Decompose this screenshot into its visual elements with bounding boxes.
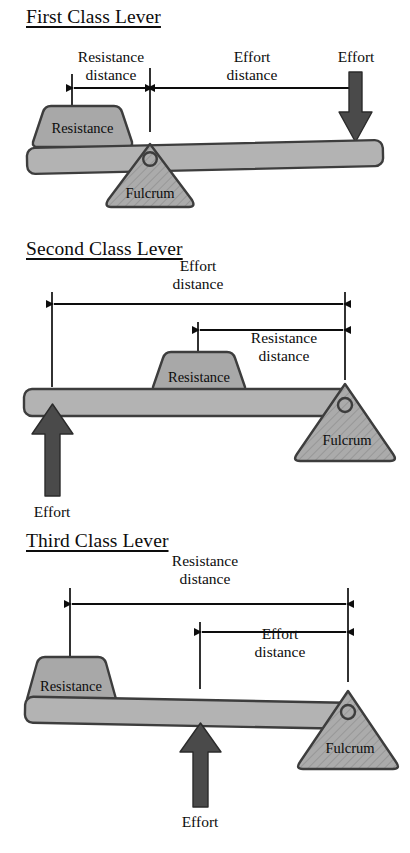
resistance-block-label: Resistance: [168, 369, 230, 385]
effort-distance-label-line1: Effort: [234, 48, 271, 65]
effort-distance-label-line1: Effort: [180, 257, 217, 274]
effort-arrow-up: [32, 404, 73, 496]
resistance-distance-label-line2: distance: [259, 347, 310, 364]
effort-force-label: Effort: [338, 48, 375, 65]
effort-arrow-up: [180, 723, 221, 807]
resistance-distance-label-line1: Resistance: [251, 329, 317, 346]
lever-beam: [24, 389, 351, 416]
effort-distance-label-line1: Effort: [262, 625, 299, 642]
resistance-distance-label-line2: distance: [86, 66, 137, 83]
resistance-block-label: Resistance: [51, 120, 113, 136]
effort-distance-label-line2: distance: [255, 643, 306, 660]
resistance-distance-label-line1: Resistance: [172, 552, 238, 569]
lever-beam: [25, 697, 352, 729]
first-class-lever-illustration: Resistance distance Effort distance Effo…: [0, 0, 410, 232]
lever-classes-diagram: First Class Lever Resistance distance Ef…: [0, 0, 410, 853]
effort-arrow-down: [339, 72, 372, 142]
resistance-distance-label-line2: distance: [180, 570, 231, 587]
fulcrum-label: Fulcrum: [322, 432, 372, 448]
resistance-block-label: Resistance: [40, 678, 102, 694]
effort-force-label: Effort: [34, 503, 71, 520]
second-class-lever-illustration: Effort distance Resistance distance Resi…: [0, 232, 410, 524]
third-class-lever-illustration: Resistance distance Effort distance Resi…: [0, 524, 410, 853]
resistance-distance-label-line1: Resistance: [78, 48, 144, 65]
fulcrum-label: Fulcrum: [325, 740, 375, 756]
effort-distance-label-line2: distance: [227, 66, 278, 83]
first-class-lever-section: First Class Lever Resistance distance Ef…: [0, 0, 410, 232]
second-class-lever-section: Second Class Lever Effort distance Resis…: [0, 232, 410, 524]
effort-force-label: Effort: [182, 813, 219, 830]
effort-distance-label-line2: distance: [173, 275, 224, 292]
fulcrum-label: Fulcrum: [125, 185, 175, 201]
third-class-lever-section: Third Class Lever Resistance distance Ef…: [0, 524, 410, 853]
